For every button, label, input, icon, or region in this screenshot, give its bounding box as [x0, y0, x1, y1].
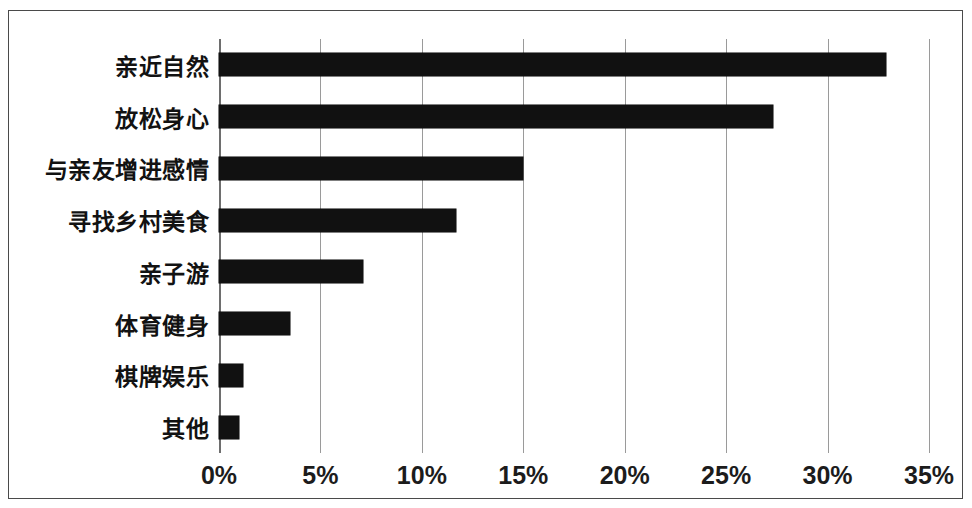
- bar: [219, 416, 239, 439]
- tick-label: 0%: [201, 461, 237, 490]
- tick-label: 5%: [302, 461, 338, 490]
- bar-row: [219, 350, 929, 402]
- bar-row: [219, 194, 929, 246]
- category-label: 亲子游: [9, 246, 209, 298]
- bar-row: [219, 246, 929, 298]
- bar: [219, 364, 243, 387]
- bar: [219, 312, 290, 335]
- chart-frame: 亲近自然放松身心与亲友增进感情寻找乡村美食亲子游体育健身棋牌娱乐其他 0%5%1…: [8, 10, 963, 499]
- bar-row: [219, 39, 929, 91]
- bar-row: [219, 298, 929, 350]
- value-axis-tick-labels: 0%5%10%15%20%25%30%35%: [219, 461, 929, 501]
- category-label: 与亲友增进感情: [9, 143, 209, 195]
- tick-label: 35%: [904, 461, 954, 490]
- gridline: [929, 39, 930, 453]
- bar-row: [219, 401, 929, 453]
- category-label: 亲近自然: [9, 39, 209, 91]
- bar: [219, 105, 773, 128]
- bar-row: [219, 91, 929, 143]
- bar: [219, 157, 523, 180]
- category-label: 棋牌娱乐: [9, 350, 209, 402]
- tick-label: 30%: [803, 461, 853, 490]
- bar: [219, 209, 456, 232]
- tick-label: 20%: [600, 461, 650, 490]
- plot-area: [219, 39, 929, 453]
- tick-label: 25%: [701, 461, 751, 490]
- category-label: 放松身心: [9, 91, 209, 143]
- bar: [219, 260, 363, 283]
- bar-row: [219, 143, 929, 195]
- category-axis-labels: 亲近自然放松身心与亲友增进感情寻找乡村美食亲子游体育健身棋牌娱乐其他: [9, 39, 214, 453]
- category-label: 其他: [9, 401, 209, 453]
- tick-label: 10%: [397, 461, 447, 490]
- tick-label: 15%: [498, 461, 548, 490]
- category-label: 体育健身: [9, 298, 209, 350]
- category-label: 寻找乡村美食: [9, 194, 209, 246]
- bar: [219, 53, 886, 76]
